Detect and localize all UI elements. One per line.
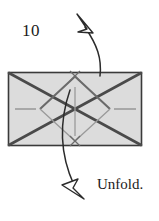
figure-page: 10 Unfold. xyxy=(0,0,159,221)
step-number-label: 10 xyxy=(22,22,40,39)
instruction-caption: Unfold. xyxy=(97,177,143,192)
unfold-arrow-down-head-icon xyxy=(62,179,84,199)
unfold-arrow-up-head-icon xyxy=(77,14,93,33)
unfold-arrow-up-shaft xyxy=(85,27,100,76)
